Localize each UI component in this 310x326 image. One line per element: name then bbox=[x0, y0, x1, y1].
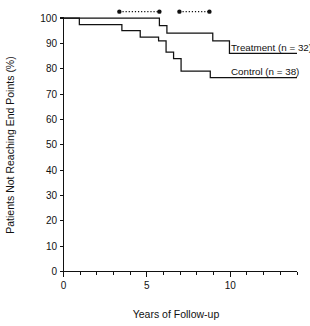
interval-bar-2-endpoint-dot bbox=[207, 9, 211, 13]
y-tick-label: 10 bbox=[46, 241, 58, 252]
x-axis-title: Years of Follow-up bbox=[133, 308, 220, 320]
chart-figure: 0102030405060708090100 Patients Not Reac… bbox=[0, 0, 310, 326]
y-tick-label: 40 bbox=[46, 165, 58, 176]
interval-bar-1-endpoint-dot bbox=[157, 9, 161, 13]
y-tick-label: 50 bbox=[46, 139, 58, 150]
x-tick-label: 0 bbox=[61, 280, 67, 291]
kaplan-meier-chart: 0102030405060708090100 Patients Not Reac… bbox=[0, 0, 310, 326]
y-tick-label: 70 bbox=[46, 89, 58, 100]
y-tick-label: 30 bbox=[46, 190, 58, 201]
y-tick-label: 80 bbox=[46, 63, 58, 74]
interval-bar-2-endpoint-dot bbox=[177, 9, 181, 13]
y-tick-label: 20 bbox=[46, 215, 58, 226]
interval-bar-1-endpoint-dot bbox=[117, 9, 121, 13]
series-label-treatment: Treatment (n = 32) bbox=[231, 42, 310, 53]
x-tick-label: 5 bbox=[144, 280, 150, 291]
series-label-control: Control (n = 38) bbox=[231, 66, 299, 77]
y-tick-label: 100 bbox=[40, 13, 57, 24]
y-axis-title: Patients Not Reaching End Points (%) bbox=[4, 56, 16, 233]
y-tick-label: 60 bbox=[46, 114, 58, 125]
y-tick-label: 90 bbox=[46, 38, 58, 49]
y-tick-label: 0 bbox=[51, 266, 57, 277]
x-tick-label: 10 bbox=[225, 280, 237, 291]
